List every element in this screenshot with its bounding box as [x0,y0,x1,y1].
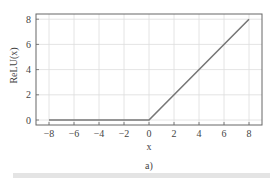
figure-caption: a) [0,160,270,171]
x-tick-label: −4 [94,128,105,139]
footer-bar [13,173,270,178]
x-tick-label: 0 [147,128,152,139]
y-tick-label: 2 [26,89,31,100]
x-tick-label: 2 [172,128,177,139]
x-tick-label: −6 [69,128,80,139]
x-axis-label: x [147,141,152,152]
y-tick-label: 8 [26,14,31,25]
x-tick-label: −8 [44,128,55,139]
relu-chart: −8−6−4−202468 02468 x ReLU(x) [0,0,270,165]
x-tick-label: −2 [119,128,130,139]
y-tick-label: 4 [26,64,31,75]
x-tick-label: 8 [247,128,252,139]
x-tick-label: 6 [222,128,227,139]
grid-lines [36,14,262,125]
y-tick-label: 6 [26,39,31,50]
y-axis-label: ReLU(x) [8,47,20,83]
y-tick-label: 0 [26,115,31,126]
y-axis-ticks: 02468 [26,14,39,126]
x-tick-label: 4 [197,128,202,139]
